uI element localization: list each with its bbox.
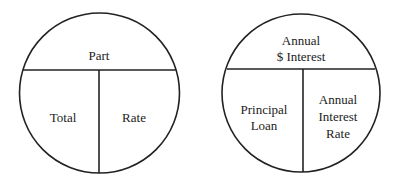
section-bottom-left-label-line2: Loan [251,118,278,133]
section-top-label: Part [89,48,110,63]
diagram-canvas: Part Total Rate Annual $ Interest Princi… [0,0,395,186]
section-top-label-line2: $ Interest [277,49,326,64]
section-bottom-left-label: Total [50,110,77,125]
section-bottom-right-label-line2: Interest [319,109,358,124]
general-percent-circle: Part Total Rate [20,13,180,173]
section-top-label-line1: Annual [282,33,321,48]
section-bottom-left-label-line1: Principal [241,102,288,117]
interest-percent-circle: Annual $ Interest Principal Loan Annual … [222,14,380,172]
section-bottom-right-label-line1: Annual [319,92,358,107]
section-bottom-right-label-line3: Rate [326,126,350,141]
section-bottom-right-label: Rate [122,110,146,125]
